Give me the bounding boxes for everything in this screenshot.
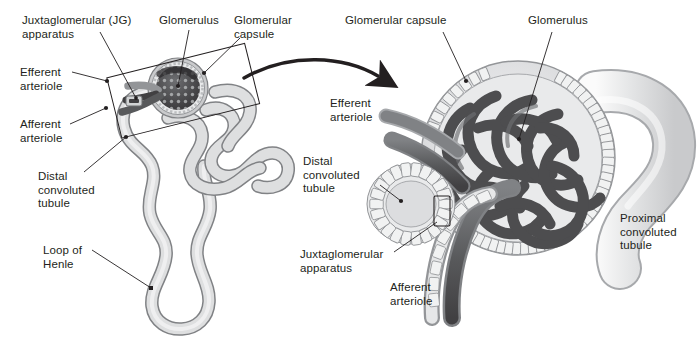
label-right-distal-convoluted-tubule: Distal convoluted tubule <box>303 155 360 196</box>
distal-convoluted-tubule-cross-section <box>367 162 455 245</box>
label-right-afferent-arteriole: Afferent arteriole <box>390 281 432 308</box>
label-left-efferent-arteriole: Efferent arteriole <box>20 66 62 93</box>
label-right-glomerulus: Glomerulus <box>528 14 588 28</box>
label-right-glomerular-capsule: Glomerular capsule <box>345 14 447 28</box>
magnification-arrow <box>244 60 378 78</box>
label-left-loop-of-henle: Loop of Henle <box>43 244 82 271</box>
label-left-distal-convoluted-tubule: Distal convoluted tubule <box>38 170 95 211</box>
left-panel-nephron <box>70 30 288 329</box>
label-left-jg-apparatus: Juxtaglomerular (JG) apparatus <box>22 14 131 41</box>
nephron-diagram-figure: Juxtaglomerular (JG) apparatusGlomerulus… <box>0 0 698 340</box>
label-right-efferent-arteriole: Efferent arteriole <box>330 97 372 124</box>
label-right-proximal-convoluted-tubule: Proximal convoluted tubule <box>620 212 677 253</box>
label-right-juxtaglomerular-apparatus: Juxtaglomerular apparatus <box>300 248 383 275</box>
label-left-afferent-arteriole: Afferent arteriole <box>20 118 62 145</box>
label-left-glomerulus: Glomerulus <box>159 14 219 28</box>
right-panel-renal-corpuscle <box>367 32 674 318</box>
nephron-tubule-system <box>123 90 288 329</box>
label-left-glomerular-capsule: Glomerular capsule <box>234 14 292 41</box>
